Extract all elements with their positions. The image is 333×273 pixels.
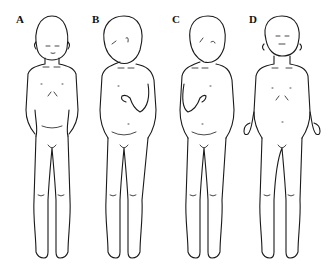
figure-b — [100, 16, 156, 258]
figure-c — [180, 16, 234, 258]
figure-d — [244, 16, 320, 258]
figure-a — [26, 16, 78, 258]
figures-illustration — [0, 0, 333, 273]
